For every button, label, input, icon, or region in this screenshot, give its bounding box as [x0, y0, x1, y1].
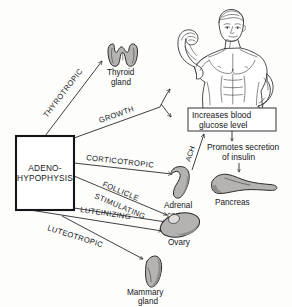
- label-luteotropic: LUTEOTROPIC: [46, 223, 104, 249]
- mammary-label-line2: gland: [138, 297, 158, 306]
- endocrine-diagram: ADENO- HYPOPHYSIS THYROTROPIC GROWTH COR…: [0, 0, 292, 307]
- label-growth: GROWTH: [98, 104, 136, 125]
- adenohypophysis-label-line2: HYPOPHYSIS: [17, 173, 73, 183]
- pancreas-organ: [212, 174, 277, 193]
- label-corticotropic: CORTICOTROPIC: [86, 153, 155, 170]
- thyroid-gland-organ: [108, 44, 138, 66]
- mammary-gland-organ: [146, 256, 162, 287]
- adrenal-label-line1: Adrenal: [164, 201, 192, 210]
- flexing-man-figure: [178, 9, 273, 110]
- adrenal-cortex-organ: [172, 167, 190, 199]
- pancreas-label: Pancreas: [215, 198, 250, 207]
- ovary-label: Ovary: [168, 238, 191, 247]
- glucose-callout-line2: glucose level: [199, 120, 248, 130]
- insulin-callout-line2: of insulin: [222, 152, 255, 162]
- thyroid-label-line2: gland: [111, 78, 131, 87]
- arrow-growth-to-glucose: [161, 104, 171, 117]
- diagram-canvas: ADENO- HYPOPHYSIS THYROTROPIC GROWTH COR…: [0, 0, 292, 307]
- thyroid-label-line1: Thyroid: [107, 68, 135, 77]
- insulin-callout-line1: Promotes secretion: [207, 142, 279, 152]
- mammary-label-line1: Mammary: [127, 288, 164, 297]
- adenohypophysis-label-line1: ADENO-: [28, 163, 62, 173]
- glucose-callout-line1: Increases blood: [192, 110, 251, 120]
